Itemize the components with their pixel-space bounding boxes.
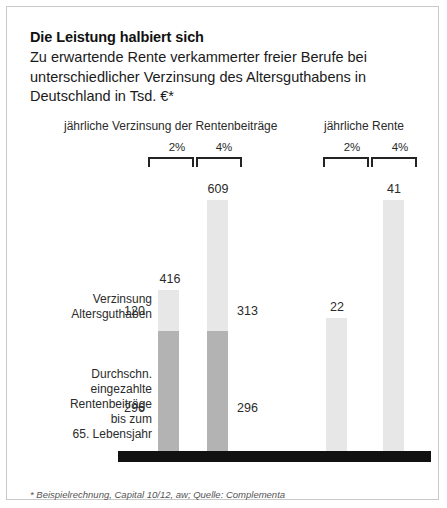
infographic-card: Die Leistung halbiert sich Zu erwartende… (6, 6, 439, 500)
chart-plot-area: 416 120 296 609 313 296 22 41 (7, 7, 440, 501)
bar-right-2 (383, 200, 404, 451)
bar-total-left-1: 416 (147, 272, 193, 286)
bar-left-2-segment-interest (207, 200, 228, 331)
bar-right-1 (326, 318, 347, 451)
bar-right-1-segment-pension (326, 318, 347, 451)
bar-left-1-segment-interest (158, 290, 179, 331)
bar-total-left-2: 609 (195, 182, 241, 196)
bar-left-1-segment-contributions (158, 331, 179, 451)
bar-total-right-1: 22 (314, 300, 360, 314)
chart-baseline (118, 451, 431, 462)
bar-left-1-value-contributions: 296 (124, 401, 145, 415)
bar-left-2-value-interest: 313 (237, 304, 258, 318)
bar-left-1 (158, 290, 179, 451)
bar-left-2-value-contributions: 296 (237, 401, 258, 415)
bar-left-1-value-interest: 120 (124, 304, 145, 318)
bar-left-2-segment-contributions (207, 331, 228, 451)
bar-right-2-segment-pension (383, 200, 404, 451)
bar-left-2 (207, 200, 228, 451)
footnote-source: * Beispielrechnung, Capital 10/12, aw; Q… (30, 489, 285, 500)
bar-total-right-2: 41 (371, 182, 417, 196)
